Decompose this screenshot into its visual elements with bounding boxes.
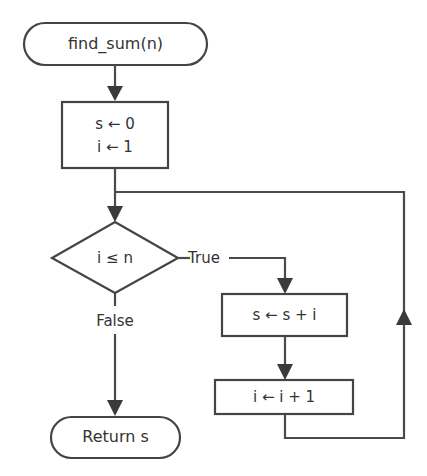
arrow-down-icon bbox=[107, 400, 123, 416]
arrow-up-icon bbox=[396, 309, 412, 325]
accumulate-label: s ← s + i bbox=[222, 305, 347, 325]
init-line-1: s ← 0 bbox=[62, 114, 168, 134]
init-process-box bbox=[62, 102, 168, 168]
arrow-down-icon bbox=[277, 278, 293, 294]
increment-label: i ← i + 1 bbox=[215, 387, 353, 407]
true-branch-label: True bbox=[188, 248, 230, 268]
edge-true bbox=[229, 258, 285, 282]
init-line-2: i ← 1 bbox=[62, 137, 168, 157]
flowchart-canvas bbox=[0, 0, 427, 476]
condition-label: i ≤ n bbox=[62, 248, 168, 268]
start-label: find_sum(n) bbox=[24, 34, 207, 54]
end-label: Return s bbox=[51, 427, 180, 447]
arrow-down-icon bbox=[277, 364, 293, 380]
arrow-down-icon bbox=[107, 206, 123, 222]
false-branch-label: False bbox=[85, 311, 145, 331]
arrow-down-icon bbox=[107, 86, 123, 101]
